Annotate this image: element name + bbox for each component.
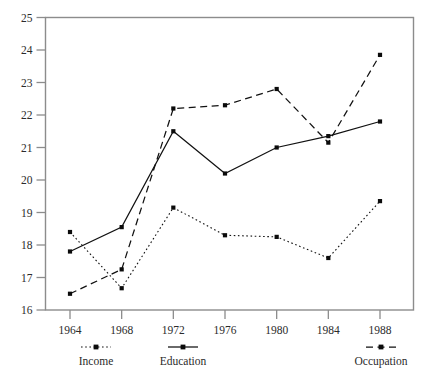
y-tick-label: 19 [21,207,33,219]
data-point-income [68,230,72,234]
data-point-income [326,256,330,260]
data-point-education [275,145,279,149]
x-axis-ticks [70,310,380,319]
y-tick-label: 20 [21,174,33,186]
data-point-occupation [120,267,124,271]
y-axis-tick-labels: 16171819202122232425 [21,12,33,317]
legend-item-income: Income [79,345,113,367]
x-tick-label: 1980 [265,324,288,336]
x-tick-label: 1976 [214,324,237,336]
data-point-occupation [171,106,175,110]
x-axis-tick-labels: 1964196819721976198019841988 [59,324,392,336]
data-point-education [68,249,72,253]
y-tick-label: 24 [21,44,33,56]
y-axis-ticks [37,18,46,311]
y-tick-label: 18 [21,239,33,251]
data-point-income [275,235,279,239]
data-point-education [326,134,330,138]
data-point-occupation [275,87,279,91]
legend-label: Education [160,355,207,367]
x-tick-label: 1984 [317,324,340,336]
legend-label: Income [79,355,113,367]
y-tick-label: 22 [21,109,33,121]
legend-marker [181,345,186,350]
legend-marker [379,345,384,350]
legend-item-occupation: Occupation [354,345,407,368]
data-point-income [378,199,382,203]
data-point-income [223,233,227,237]
y-tick-label: 23 [21,77,33,89]
legend-label: Occupation [354,355,407,368]
data-point-education [120,225,124,229]
series-markers-group [68,53,382,296]
legend-marker [94,345,99,350]
y-tick-label: 16 [21,304,33,316]
data-point-occupation [326,141,330,145]
x-tick-label: 1988 [369,324,392,336]
line-chart: 16171819202122232425 1964196819721976198… [0,0,436,381]
x-tick-label: 1964 [59,324,82,336]
x-tick-label: 1968 [110,324,133,336]
data-point-income [171,206,175,210]
series-line-income [70,201,380,288]
chart-legend: IncomeEducationOccupation [79,345,408,368]
y-tick-label: 25 [21,12,33,24]
y-tick-label: 17 [21,272,33,284]
data-point-occupation [223,103,227,107]
data-point-education [378,119,382,123]
x-tick-label: 1972 [162,324,185,336]
legend-item-education: Education [160,345,207,367]
data-point-education [223,171,227,175]
data-point-income [120,286,124,290]
plot-frame [46,18,414,311]
data-point-education [171,129,175,133]
data-point-occupation [378,53,382,57]
chart-canvas: 16171819202122232425 1964196819721976198… [0,0,436,381]
y-tick-label: 21 [21,142,33,154]
data-point-occupation [68,292,72,296]
series-line-education [70,122,380,252]
